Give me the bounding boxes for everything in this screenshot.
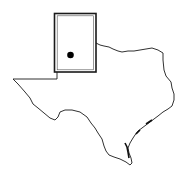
panhandle-highlight-box (55, 14, 97, 73)
panhandle-inner-line (57, 16, 93, 70)
texas-locator-map (0, 0, 186, 182)
location-dot-icon (67, 52, 74, 59)
